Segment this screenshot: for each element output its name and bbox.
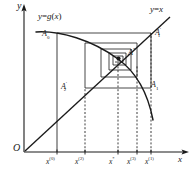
x-tick-label-x1: x(1) bbox=[145, 157, 154, 165]
x-tick-label-x0: x(0) bbox=[46, 157, 55, 165]
figure-canvas: y x O y=g(x) y=x A0 A'1 A* A'2 A1 x(0) x… bbox=[0, 0, 192, 177]
point-label-A1: A1 bbox=[151, 81, 158, 92]
point-label-A2-prime: A'2 bbox=[61, 82, 66, 93]
x-axis-label: x bbox=[178, 155, 182, 164]
point-label-A-star: A* bbox=[128, 48, 135, 57]
x-tick-label-x2: x(2) bbox=[75, 157, 84, 165]
g-curve-path bbox=[36, 32, 153, 120]
point-label-A1-prime: A'1 bbox=[155, 28, 160, 39]
fixed-point-marker bbox=[116, 56, 120, 60]
identity-line-label: y=x bbox=[150, 5, 163, 14]
x-tick-label-x3: x(3) bbox=[127, 157, 136, 165]
y-axis-label: y bbox=[17, 1, 21, 11]
g-curve-label: y=g(x) bbox=[38, 12, 62, 21]
cobweb-diagram-svg bbox=[0, 0, 192, 177]
origin-label: O bbox=[13, 143, 20, 153]
x-tick-label-xstar: x* bbox=[109, 157, 115, 165]
tick-droplines-group bbox=[85, 33, 151, 152]
point-label-A0: A0 bbox=[42, 30, 49, 41]
